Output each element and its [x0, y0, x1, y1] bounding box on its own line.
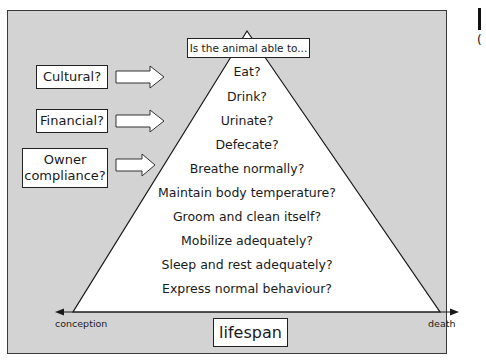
question-item: Sleep and rest adequately?: [0, 257, 486, 272]
question-item: Urinate?: [0, 113, 486, 128]
question-item: Maintain body temperature?: [0, 185, 486, 200]
question-item: Drink?: [0, 89, 486, 104]
lifespan-label: lifespan: [219, 323, 282, 342]
question-item: Eat?: [0, 64, 486, 79]
question-item: Defecate?: [0, 137, 486, 152]
question-header-text: Is the animal able to...: [190, 42, 308, 55]
cropped-edge-text: (: [477, 33, 482, 47]
question-item: Breathe normally?: [0, 161, 486, 176]
question-item: Mobilize adequately?: [0, 233, 486, 248]
cropped-edge-mark: [478, 8, 481, 30]
arrowhead-left-icon: [55, 309, 64, 316]
axis-start-label: conception: [55, 318, 107, 329]
question-item: Express normal behaviour?: [0, 281, 486, 296]
question-header-box: Is the animal able to...: [187, 38, 310, 58]
axis-end-label: death: [428, 318, 455, 329]
lifespan-box: lifespan: [213, 318, 288, 347]
question-item: Groom and clean itself?: [0, 209, 486, 224]
arrowhead-right-icon: [450, 309, 459, 316]
